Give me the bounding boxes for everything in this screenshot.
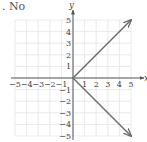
y-tick-label: −1 — [59, 86, 71, 95]
ray-line — [73, 78, 131, 136]
y-tick-label: −3 — [59, 109, 71, 118]
ray-line — [73, 20, 131, 78]
tick-labels: xy−5−4−3−2−112345−5−4−3−2−112345 — [9, 0, 147, 141]
y-tick-label: 1 — [66, 62, 71, 71]
y-tick-label: 5 — [66, 16, 71, 25]
y-tick-label: −4 — [59, 120, 71, 129]
y-tick-label: 3 — [66, 39, 71, 48]
x-tick-label: 3 — [105, 80, 110, 89]
y-tick-label: 4 — [66, 28, 71, 37]
y-tick-label: 2 — [66, 51, 71, 60]
x-tick-label: −4 — [21, 80, 33, 89]
y-tick-label: −2 — [59, 97, 71, 106]
x-tick-label: −5 — [9, 80, 21, 89]
x-tick-label: 2 — [94, 80, 99, 89]
x-tick-label: 5 — [128, 80, 133, 89]
y-axis-label: y — [68, 0, 74, 10]
coordinate-plot: xy−5−4−3−2−112345−5−4−3−2−112345 — [0, 0, 147, 142]
x-axis-label: x — [144, 73, 147, 83]
x-tick-label: −3 — [32, 80, 44, 89]
y-tick-label: −5 — [59, 132, 71, 141]
axes — [11, 10, 144, 140]
x-tick-label: 4 — [117, 80, 122, 89]
x-tick-label: −2 — [44, 80, 56, 89]
